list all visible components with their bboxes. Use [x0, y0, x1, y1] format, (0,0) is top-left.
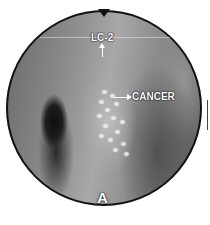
lesion-nodules: [96, 88, 130, 162]
label-lc2: LC-2: [91, 32, 113, 43]
arrow-up-icon: [102, 45, 103, 57]
edge-mark: [207, 100, 208, 130]
panel-letter: A: [97, 189, 108, 206]
orientation-notch: [98, 9, 110, 17]
arrow-right-icon: [114, 97, 128, 98]
label-cancer: CANCER: [132, 91, 175, 102]
